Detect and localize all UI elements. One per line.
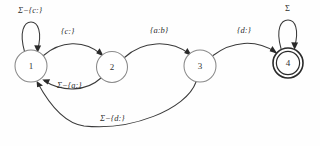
state-node-1[interactable]: 1	[15, 50, 47, 82]
state-diagram-graph: 1 2 3 4	[0, 0, 320, 146]
edge-label-self-loop-state-1: Σ−{c:}	[18, 6, 42, 15]
state-diagram-canvas: 1 2 3 4 Σ−{c:} {c:} {a:b} {d:} Σ Σ−{a:} …	[0, 0, 320, 146]
state-node-3[interactable]: 3	[184, 50, 216, 82]
state-node-3-label: 3	[198, 61, 203, 71]
edge-state1-to-state2	[44, 44, 104, 57]
edge-state2-to-state3	[125, 44, 192, 58]
edge-state3-to-state4	[213, 43, 277, 55]
state-node-1-label: 1	[29, 61, 34, 71]
edge-state3-to-state4-path	[213, 43, 275, 55]
state-node-2-label: 2	[110, 62, 115, 72]
edge-label-state1-to-state2: {c:}	[61, 27, 74, 36]
state-node-4-accepting[interactable]: 4	[273, 48, 303, 78]
edge-label-state3-to-state1: Σ−{d:}	[100, 114, 125, 123]
edge-state2-to-state3-path	[125, 44, 190, 58]
edge-state1-to-state2-path	[44, 44, 102, 56]
edge-state3-to-state1-arrowhead	[37, 81, 43, 87]
self-loop-state-4	[279, 20, 298, 50]
edge-label-state3-to-state4: {d:}	[237, 26, 251, 35]
edge-label-state2-to-state3: {a:b}	[150, 26, 168, 35]
edge-label-state2-to-state1: Σ−{a:}	[57, 81, 82, 90]
edge-label-self-loop-state-4: Σ	[285, 4, 290, 13]
self-loop-state-1	[22, 22, 41, 53]
state-node-2[interactable]: 2	[97, 52, 128, 83]
state-node-4-label: 4	[286, 58, 291, 68]
